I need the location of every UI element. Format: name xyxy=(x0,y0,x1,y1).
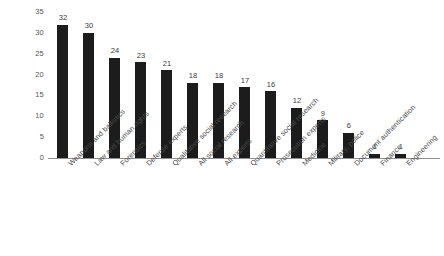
y-tick-label: 0 xyxy=(40,154,44,162)
y-tick-label: 10 xyxy=(35,113,44,121)
bar-value-label: 30 xyxy=(76,22,102,30)
bar-chart: 05101520253035 323024232118181716129611 … xyxy=(0,0,444,256)
bar-slot: 17 xyxy=(232,12,258,158)
y-tick-label: 20 xyxy=(35,71,44,79)
y-tick-label: 25 xyxy=(35,50,44,58)
bar xyxy=(57,25,68,158)
bar-slot: 9 xyxy=(310,12,336,158)
bar-value-label: 17 xyxy=(232,77,258,85)
y-tick-label: 35 xyxy=(35,8,44,16)
bar-slot: 23 xyxy=(128,12,154,158)
bar-value-label: 16 xyxy=(258,81,284,89)
bar-slot: 32 xyxy=(50,12,76,158)
bar-value-label: 23 xyxy=(128,52,154,60)
y-tick-label: 15 xyxy=(35,92,44,100)
bar-value-label: 18 xyxy=(206,72,232,80)
bar-value-label: 18 xyxy=(180,72,206,80)
bar-slot: 1 xyxy=(388,12,414,158)
bar-value-label: 21 xyxy=(154,60,180,68)
y-tick-label: 30 xyxy=(35,29,44,37)
y-tick-label: 5 xyxy=(40,133,44,141)
bar-value-label: 24 xyxy=(102,47,128,55)
bar-value-label: 32 xyxy=(50,14,76,22)
x-axis-tick-labels: Weapons and ballisticsLaw and human righ… xyxy=(50,160,444,256)
y-axis: 05101520253035 xyxy=(0,0,48,170)
